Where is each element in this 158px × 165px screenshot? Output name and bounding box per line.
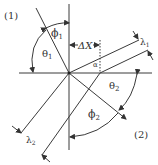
lambda2-arrow-top <box>12 126 21 133</box>
theta1-label: θ1 <box>42 48 53 61</box>
lambda2-label: λ2 <box>26 135 36 146</box>
refracted-ray <box>69 73 126 119</box>
phi2-label: ϕ2 <box>88 108 100 122</box>
refraction-diagram: (1) (2) ϕ1 θ1 θ2 ϕ2 ΔX α λ1 λ2 <box>0 0 158 165</box>
theta2-arc <box>119 74 137 110</box>
medium2-label: (2) <box>134 129 148 140</box>
alpha-label: α <box>93 61 98 69</box>
lambda1-arrow-top <box>133 31 138 39</box>
lambda1-label: λ1 <box>140 37 150 48</box>
theta2-label: θ2 <box>109 80 120 93</box>
lambda1-arrow-bottom <box>148 51 153 60</box>
lambda2-arrow-bottom <box>42 155 50 162</box>
wavefront-line-2a <box>21 73 69 133</box>
origin-point <box>68 72 71 75</box>
medium1-label: (1) <box>4 10 18 21</box>
incident-ray <box>36 8 69 73</box>
phi1-label: ϕ1 <box>51 27 63 41</box>
delta-x-label: ΔX <box>77 40 93 51</box>
wavefront-line-1b <box>100 50 148 73</box>
